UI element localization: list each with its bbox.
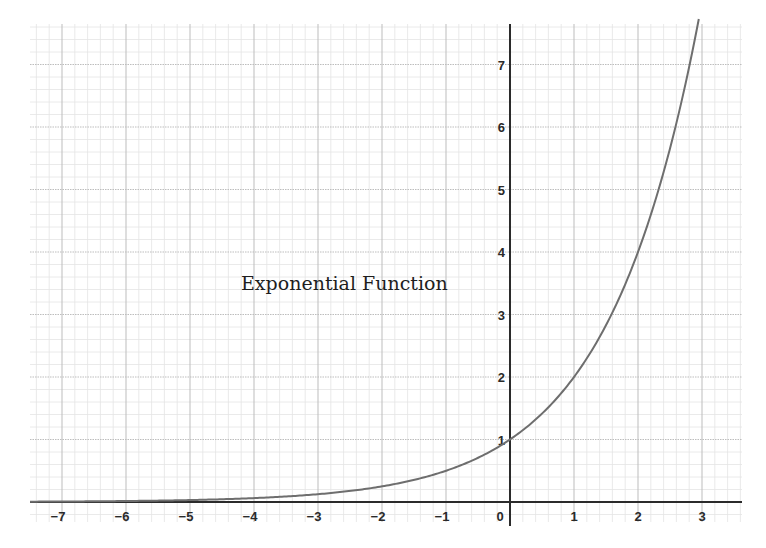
y-tick-label: 4 xyxy=(498,245,506,260)
x-tick-labels: −7−6−5−4−3−2−10123 xyxy=(51,509,706,524)
x-tick-label: 1 xyxy=(570,509,577,524)
y-tick-label: 5 xyxy=(498,183,505,198)
x-tick-label: −1 xyxy=(435,509,450,524)
y-tick-label: 7 xyxy=(498,58,505,73)
y-tick-label: 2 xyxy=(498,370,505,385)
x-tick-label: −2 xyxy=(371,509,386,524)
y-tick-label: 6 xyxy=(498,120,505,135)
y-tick-label: 3 xyxy=(498,308,505,323)
x-tick-label: −3 xyxy=(307,509,322,524)
x-tick-label: 0 xyxy=(496,509,503,524)
y-tick-labels: 1234567 xyxy=(498,58,506,448)
chart-title: Exponential Function xyxy=(241,272,448,294)
x-tick-label: −4 xyxy=(243,509,259,524)
x-tick-label: 2 xyxy=(634,509,641,524)
exponential-function-chart: −7−6−5−4−3−2−10123 1234567 Exponential F… xyxy=(0,0,766,548)
x-tick-label: 3 xyxy=(698,509,705,524)
x-tick-label: −5 xyxy=(179,509,194,524)
x-tick-label: −7 xyxy=(51,509,66,524)
x-tick-label: −6 xyxy=(115,509,130,524)
exponential-curve xyxy=(30,19,699,502)
